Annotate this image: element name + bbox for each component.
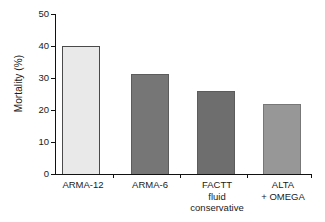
bar-arma-6 [131,74,169,174]
y-axis-line [55,14,56,174]
bar-alta-omega [263,104,301,174]
x-tick-mark [113,174,114,178]
x-tick-mark [180,174,181,178]
y-axis-label: Mortality (%) [13,14,24,154]
y-tick-label: 40 [38,40,49,51]
bar-arma-12 [62,46,100,174]
x-tick-mark [311,174,312,178]
y-tick-mark [51,174,55,175]
y-tick-mark [51,110,55,111]
y-tick-label: 10 [38,136,49,147]
y-tick-mark [51,78,55,79]
y-tick-label: 30 [38,72,49,83]
x-category-label-factt: FACTT fluid conservative [184,179,250,214]
x-category-label-arma-12: ARMA-12 [52,179,114,191]
y-tick-mark [51,14,55,15]
bar-factt [197,91,235,174]
y-tick-label: 20 [38,104,49,115]
x-category-label-arma-6: ARMA-6 [119,179,181,191]
y-tick-mark [51,46,55,47]
y-tick-mark [51,142,55,143]
x-category-label-alta-omega: ALTA + OMEGA [250,179,316,202]
mortality-bar-chart: Mortality (%) 0 10 20 30 40 50 [0,0,325,222]
plot-area: 0 10 20 30 40 50 [55,14,312,174]
y-tick-label: 50 [38,8,49,19]
x-tick-mark [247,174,248,178]
y-tick-label: 0 [44,168,49,179]
x-axis-line [55,174,312,175]
